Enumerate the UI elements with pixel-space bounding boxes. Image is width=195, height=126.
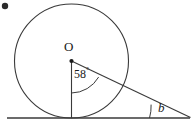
center-label-O: O [64, 40, 73, 53]
geometry-canvas [0, 0, 195, 126]
exterior-angle-arc [150, 105, 152, 118]
hypotenuse-segment [72, 61, 191, 118]
degree-symbol: ° [86, 66, 89, 75]
center-point-marker [69, 59, 73, 63]
geometry-figure: O 58° b [0, 0, 195, 126]
exterior-angle-label: b [158, 101, 165, 114]
central-angle-value: 58 [74, 67, 86, 81]
central-angle-label: 58° [74, 67, 89, 80]
bullet-dot-icon [2, 3, 8, 9]
